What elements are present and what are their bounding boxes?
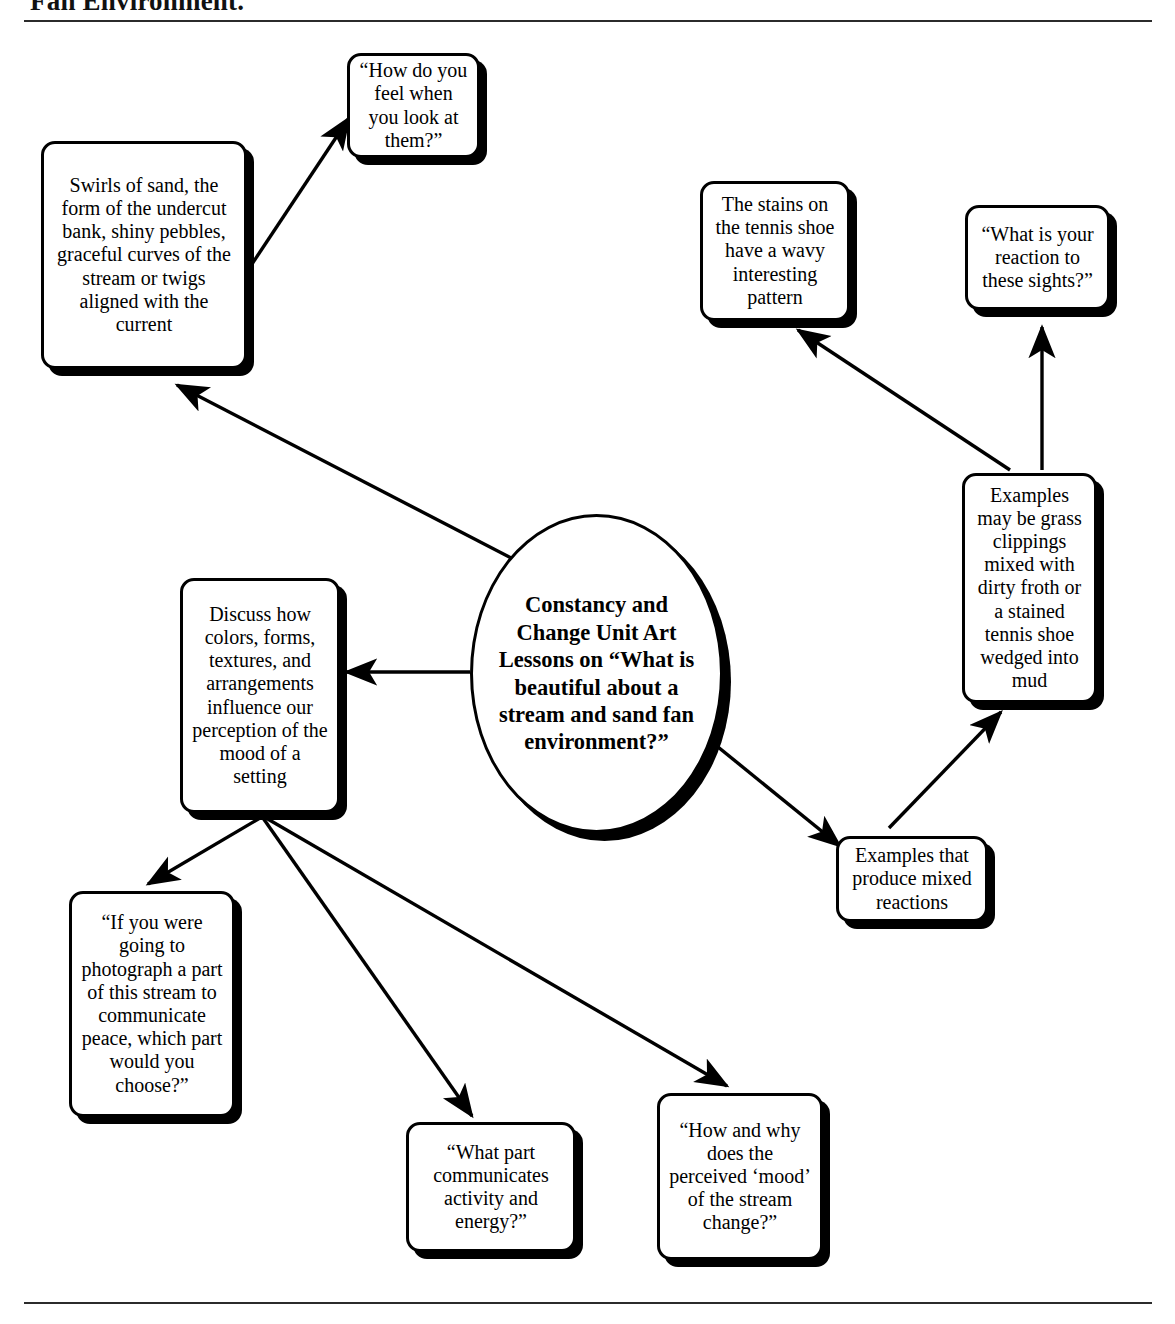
edge-center-to-mixed	[702, 734, 840, 846]
edge-discuss-to-activity	[263, 818, 472, 1116]
node-discuss-colors-forms[interactable]: Discuss how colors, forms, textures, and…	[180, 578, 340, 813]
edge-grass-to-stains	[798, 330, 1010, 470]
page-title: Fan Environment.	[30, 0, 244, 17]
node-photograph-peace[interactable]: “If you were going to photograph a part …	[69, 891, 235, 1117]
node-examples-grass-clippings[interactable]: Examples may be grass clippings mixed wi…	[962, 473, 1097, 703]
node-perceived-mood-change-label: “How and why does the perceived ‘mood’ o…	[668, 1119, 812, 1235]
node-stains-on-tennis-shoe-label: The stains on the tennis shoe have a wav…	[711, 193, 839, 309]
node-photograph-peace-label: “If you were going to photograph a part …	[80, 911, 224, 1097]
node-central-question[interactable]: Constancy and Change Unit Art Lessons on…	[470, 514, 723, 833]
edge-swirls-to-feel	[250, 118, 349, 267]
node-examples-grass-clippings-label: Examples may be grass clippings mixed wi…	[973, 484, 1086, 693]
node-what-is-your-reaction[interactable]: “What is your reaction to these sights?”	[965, 205, 1110, 310]
node-how-do-you-feel[interactable]: “How do you feel when you look at them?”	[347, 53, 480, 158]
node-activity-and-energy[interactable]: “What part communicates activity and ene…	[406, 1122, 576, 1252]
node-stains-on-tennis-shoe[interactable]: The stains on the tennis shoe have a wav…	[700, 181, 850, 321]
diagram-page: Fan Environment. Swirls of sand,	[0, 0, 1175, 1324]
edge-discuss-to-photograph	[148, 818, 260, 884]
node-swirls-of-sand[interactable]: Swirls of sand, the form of the undercut…	[41, 141, 247, 369]
footer-divider	[24, 1302, 1152, 1304]
node-examples-mixed-reactions[interactable]: Examples that produce mixed reactions	[836, 836, 988, 922]
node-discuss-colors-forms-label: Discuss how colors, forms, textures, and…	[191, 603, 329, 789]
edge-mixed-to-grass	[889, 712, 1001, 828]
node-central-question-label: Constancy and Change Unit Art Lessons on…	[487, 591, 706, 756]
node-examples-mixed-reactions-label: Examples that produce mixed reactions	[847, 844, 977, 914]
node-what-is-your-reaction-label: “What is your reaction to these sights?”	[976, 223, 1099, 293]
node-activity-and-energy-label: “What part communicates activity and ene…	[417, 1141, 565, 1234]
edge-discuss-to-mood	[266, 818, 727, 1086]
edge-center-to-swirls	[177, 385, 519, 562]
node-how-do-you-feel-label: “How do you feel when you look at them?”	[358, 59, 469, 152]
node-perceived-mood-change[interactable]: “How and why does the perceived ‘mood’ o…	[657, 1093, 823, 1260]
header-divider	[24, 20, 1152, 22]
node-swirls-of-sand-label: Swirls of sand, the form of the undercut…	[52, 174, 236, 336]
